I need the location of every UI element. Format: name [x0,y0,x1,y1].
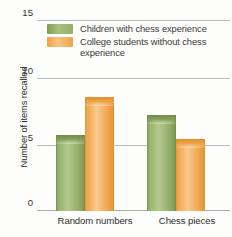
y-tick-10: 10 [0,66,33,76]
bar-body [147,115,176,211]
x-category-label-chess-pieces: Chess pieces [139,215,232,226]
bar-edge-right [204,139,205,211]
bar-cap [85,97,114,106]
bar-random-numbers-college [85,97,114,211]
y-tick-5: 5 [0,133,33,143]
bar-body [56,135,85,211]
bar-edge-left [56,135,57,211]
bar-chess-pieces-college [176,139,205,211]
bar-chart: Number of items recalled 15 10 5 0 Child… [0,0,232,237]
x-category-label-random-numbers: Random numbers [47,215,143,226]
plot-area [37,0,230,211]
bar-edge-left [176,139,177,211]
bar-edge-right [113,97,114,211]
bar-edge-left [85,97,86,211]
y-tick-label-15: 15 [3,8,33,18]
bar-random-numbers-children [56,135,85,211]
y-tick-15: 15 [0,8,33,18]
y-tick-0: 0 [0,198,33,208]
bar-chess-pieces-children [147,115,176,211]
bar-body [85,97,114,211]
bar-cap [147,115,176,124]
y-tick-label-5: 5 [3,133,33,143]
y-tick-label-10: 10 [3,66,33,76]
y-tick-label-0: 0 [3,198,33,208]
bar-cap [56,135,85,144]
bar-cap [176,139,205,148]
bar-edge-left [147,115,148,211]
bar-body [176,139,205,211]
y-axis-title: Number of items recalled [19,32,29,202]
